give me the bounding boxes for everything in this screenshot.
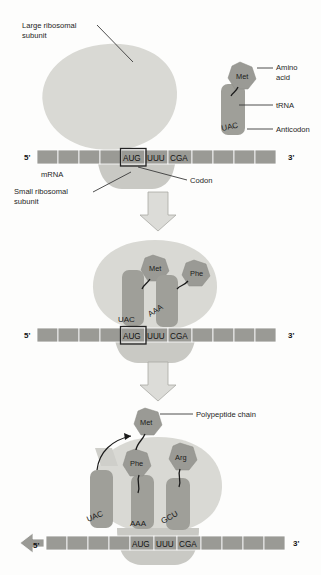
mrna-segment xyxy=(264,536,285,550)
trna-body-p2-2 xyxy=(156,275,178,327)
five-prime-label-p3: 5' xyxy=(33,541,39,550)
five-prime-label-p2: 5' xyxy=(24,331,30,340)
panel-elongation-1: Met UAC Phe AAA 5' xyxy=(24,240,294,363)
mrna-segment xyxy=(213,328,234,342)
amino-acid-label-line1: Amino xyxy=(276,63,298,72)
aa-trna-bond-p3-2 xyxy=(138,475,139,493)
polypeptide-chain-label: Polypeptide chain xyxy=(196,410,256,419)
small-subunit-label-line2: subunit xyxy=(14,197,39,206)
translation-diagram: Large ribosomal subunit Met UAC Amino ac… xyxy=(0,0,321,575)
flow-arrow-2 xyxy=(140,362,176,401)
mrna-segment xyxy=(67,536,88,550)
panel-initiation: Large ribosomal subunit Met UAC Amino ac… xyxy=(14,21,310,206)
mrna-segment xyxy=(100,150,121,164)
three-prime-label-p3: 3' xyxy=(293,539,299,548)
codon-cga-text-p2: CGA xyxy=(170,332,188,341)
anticodon-label: Anticodon xyxy=(276,125,310,134)
flow-arrow-1 xyxy=(140,192,176,231)
translocation-arrowhead-p3 xyxy=(124,433,131,440)
mrna-segment xyxy=(201,536,222,550)
codon-cga-text-p1: CGA xyxy=(170,154,188,163)
panel-elongation-2: UAC Phe AAA Arg GCU Met Polypeptide cha xyxy=(20,408,299,565)
five-prime-translocation-arrow xyxy=(20,533,44,553)
mrna-segment xyxy=(79,150,100,164)
mrna-segment xyxy=(234,328,255,342)
mrna-segment xyxy=(88,536,109,550)
three-prime-label-p2: 3' xyxy=(288,331,294,340)
amino-acid-met-label-p2: Met xyxy=(149,264,161,273)
mrna-segment xyxy=(234,150,255,164)
mrna-segment xyxy=(255,150,276,164)
mrna-segment xyxy=(58,150,79,164)
mrna-segment xyxy=(213,150,234,164)
codon-uuu-text-p2: UUU xyxy=(147,332,165,341)
five-prime-label-p1: 5' xyxy=(24,153,30,162)
diagram-canvas: Large ribosomal subunit Met UAC Amino ac… xyxy=(0,0,321,575)
amino-acid-arg-label-p3: Arg xyxy=(175,453,187,462)
amino-acid-met-label-p3: Met xyxy=(140,418,152,427)
anticodon-uac-label-p2: UAC xyxy=(118,315,135,324)
three-prime-label-p1: 3' xyxy=(288,153,294,162)
mrna-segment xyxy=(192,328,213,342)
codon-aug-text-p2: AUG xyxy=(123,332,141,341)
large-subunit-label-line1: Large ribosomal xyxy=(22,21,77,30)
mrna-segment xyxy=(46,536,67,550)
large-ribosomal-subunit-shape xyxy=(42,44,177,150)
amino-acid-phe-label-p3: Phe xyxy=(130,459,143,468)
anticodon-aaa-label-p3: AAA xyxy=(130,519,147,528)
mrna-segment xyxy=(37,328,58,342)
mrna-strand-p2: 5' 3' AUG UUU CGA xyxy=(24,327,294,345)
mrna-segment xyxy=(79,328,100,342)
codon-label: Codon xyxy=(190,176,212,185)
mrna-segment xyxy=(109,536,130,550)
trna-label: tRNA xyxy=(276,101,295,110)
small-subunit-label-line1: Small ribosomal xyxy=(14,187,68,196)
large-ribosomal-subunit-shape-p3 xyxy=(94,437,222,533)
mrna-strand-p3: 5' 3' AUG UUU CGA xyxy=(20,533,299,553)
mrna-segment xyxy=(37,150,58,164)
mrna-segment xyxy=(100,328,121,342)
mrna-segment xyxy=(58,328,79,342)
codon-cga-text-p3: CGA xyxy=(179,540,197,549)
mrna-segment xyxy=(243,536,264,550)
amino-acid-label-line2: acid xyxy=(276,73,290,82)
large-subunit-label-line2: subunit xyxy=(22,31,47,40)
codon-uuu-text-p1: UUU xyxy=(147,154,165,163)
mrna-segment xyxy=(255,328,276,342)
amino-acid-phe-label-p2: Phe xyxy=(190,269,203,278)
amino-acid-met-label-p1: Met xyxy=(236,72,248,81)
mrna-segment xyxy=(192,150,213,164)
mrna-strand-p1: 5' 3' AUG UUU CGA xyxy=(24,149,294,167)
codon-aug-text-p1: AUG xyxy=(123,154,141,163)
aa-trna-bond-p3-3 xyxy=(179,469,180,487)
mrna-label: mRNA xyxy=(41,170,64,179)
codon-uuu-text-p3: UUU xyxy=(156,540,174,549)
mrna-segment xyxy=(222,536,243,550)
codon-aug-text-p3: AUG xyxy=(132,540,150,549)
